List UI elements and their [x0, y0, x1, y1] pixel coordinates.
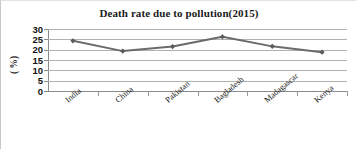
y-tick-label-15: 15: [13, 56, 43, 65]
y-tick-label-30: 30: [13, 25, 43, 34]
plot-area: [48, 29, 347, 91]
gridline-15: [48, 60, 347, 61]
gridline-20: [48, 50, 347, 51]
x-tick-mark: [198, 91, 199, 96]
y-tick-label-20: 20: [13, 45, 43, 54]
y-tick-label-5: 5: [13, 76, 43, 85]
y-tick-label-0: 0: [13, 87, 43, 96]
chart-title: Death rate due to pollution(2015): [1, 7, 356, 19]
gridline-25: [48, 39, 347, 40]
x-tick-mark: [148, 91, 149, 96]
gridline-5: [48, 81, 347, 82]
x-tick-mark: [297, 91, 298, 96]
y-axis-tick-labels: 30 25 20 15 10 5 0: [9, 1, 43, 149]
chart-screenshot: Death rate due to pollution(2015) ( %) 3…: [0, 0, 356, 149]
y-tick-label-10: 10: [13, 66, 43, 75]
x-tick-mark: [98, 91, 99, 96]
x-tick-mark: [347, 91, 348, 96]
y-tick-label-25: 25: [13, 35, 43, 44]
gridline-10: [48, 70, 347, 71]
x-tick-mark: [247, 91, 248, 96]
gridline-30: [48, 29, 347, 30]
